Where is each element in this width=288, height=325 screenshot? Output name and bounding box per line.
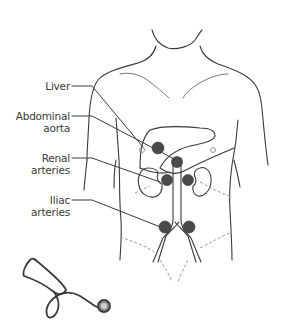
label-abdominal-aorta: Abdominal aorta xyxy=(10,110,70,134)
label-liver: Liver xyxy=(20,80,70,92)
clavicle-right xyxy=(183,74,228,98)
torso-right-outline xyxy=(230,120,238,260)
site-iliac-right xyxy=(183,221,195,233)
stethoscope-icon xyxy=(23,259,110,318)
leader-iliac xyxy=(72,200,163,228)
dashed-line-pelvis xyxy=(160,260,188,282)
site-iliac-left xyxy=(159,221,171,233)
diagram-canvas: Liver Abdominal aorta Renal arteries Ili… xyxy=(0,0,288,325)
label-iliac-arteries: Iliac arteries xyxy=(10,194,70,218)
site-aorta xyxy=(172,157,183,168)
label-renal-arteries: Renal arteries xyxy=(10,152,70,176)
clavicle-left xyxy=(120,73,169,98)
torso-left-outline xyxy=(116,118,121,260)
site-liver xyxy=(152,142,164,154)
dashed-line-upper xyxy=(135,182,232,197)
site-renal-right xyxy=(183,175,194,186)
dashed-line-lower xyxy=(120,232,232,253)
site-renal-left xyxy=(162,175,173,186)
neck-outline xyxy=(152,30,202,49)
kidney-right xyxy=(193,168,211,197)
